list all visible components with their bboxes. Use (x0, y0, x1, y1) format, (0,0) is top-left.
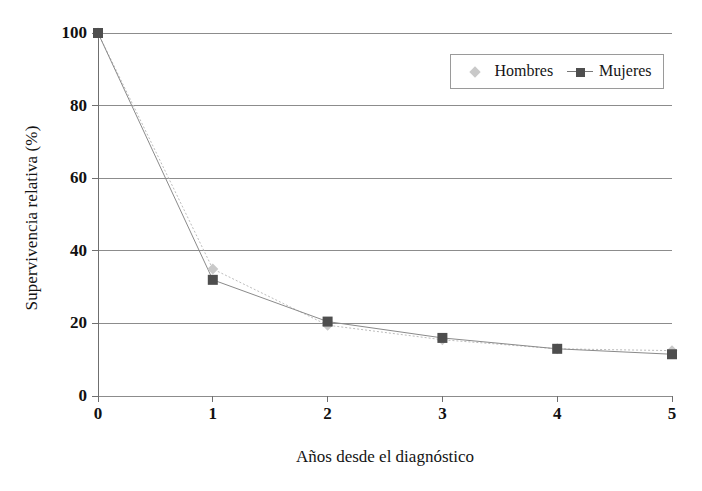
data-point-mujeres-2 (323, 317, 333, 327)
data-point-mujeres-4 (552, 344, 562, 354)
legend-label-hombres: Hombres (494, 63, 553, 80)
chart-container: Supervivencia relativa (%) Años desde el… (0, 0, 702, 491)
y-tick-label-0: 0 (41, 386, 87, 406)
x-tick-label-1: 1 (193, 404, 233, 424)
x-tick-label-0: 0 (78, 404, 118, 424)
data-point-mujeres-5 (667, 349, 677, 359)
x-tick-label-4: 4 (537, 404, 577, 424)
legend-label-mujeres: Mujeres (599, 63, 651, 80)
legend-entry-mujeres: Mujeres (567, 63, 651, 80)
legend-entry-hombres: Hombres (462, 63, 553, 80)
y-tick-label-100: 100 (41, 23, 87, 43)
x-tick-label-3: 3 (422, 404, 462, 424)
y-tick-label-80: 80 (41, 96, 87, 116)
square-marker-icon (567, 66, 593, 78)
data-point-mujeres-0 (93, 28, 103, 38)
y-tick-label-20: 20 (41, 313, 87, 333)
x-tick-label-2: 2 (308, 404, 348, 424)
data-point-mujeres-1 (208, 275, 218, 285)
chart-legend: Hombres Mujeres (450, 54, 664, 89)
data-point-mujeres-3 (437, 333, 447, 343)
diamond-marker-icon (462, 66, 488, 78)
y-tick-label-40: 40 (41, 241, 87, 261)
x-axis-title: Años desde el diagnóstico (98, 447, 672, 467)
y-tick-label-60: 60 (41, 168, 87, 188)
x-tick-label-5: 5 (652, 404, 692, 424)
y-axis-title: Supervivencia relativa (%) (22, 48, 42, 388)
data-point-hombres-1 (207, 263, 218, 274)
